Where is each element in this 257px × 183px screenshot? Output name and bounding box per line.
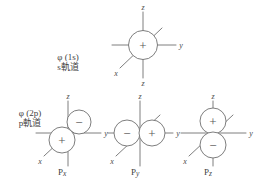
p-orbital-row-label: φ (2p) p軌道 — [2, 108, 58, 129]
s-orbital-group: + z y x z — [112, 3, 183, 88]
px-orbital-plus-sign: + — [58, 133, 65, 148]
py-orbital-plus-sign: + — [148, 126, 155, 141]
s-orbital-y-label: y — [178, 41, 183, 50]
s-orbital-z-label: z — [140, 3, 145, 12]
pz-orbital-x-label: x — [182, 157, 187, 166]
py-orbital-caption: Py — [131, 167, 140, 178]
px-orbital-x-label: x — [37, 157, 42, 166]
pz-orbital-z-label: z — [210, 92, 215, 101]
p-orbital-japanese-label: p軌道 — [2, 118, 58, 128]
py-orbital-x-label: x — [109, 157, 114, 166]
px-orbital-caption: Px — [58, 167, 67, 178]
pz-orbital-plus-sign: + — [209, 114, 216, 129]
py-orbital-group: − + z y x — [108, 92, 180, 167]
pz-orbital-caption: Pz — [204, 167, 212, 178]
py-caption-subscript: y — [136, 169, 139, 178]
py-orbital-y-label: y — [175, 129, 180, 138]
pz-orbital-y-label: y — [248, 129, 253, 138]
px-caption-subscript: x — [63, 169, 66, 178]
py-orbital-minus-sign: − — [123, 126, 130, 141]
pz-caption-subscript: z — [209, 169, 212, 178]
orbital-diagram-figure: φ (1s) s軌道 + z y x z − + — [0, 0, 257, 183]
py-orbital-z-label: z — [137, 92, 142, 101]
pz-orbital-minus-sign: − — [209, 138, 216, 153]
px-orbital-minus-sign: − — [75, 115, 82, 130]
s-orbital-plus-sign: + — [139, 38, 146, 53]
px-orbital-y-label: y — [103, 129, 108, 138]
px-orbital-z-label: z — [65, 92, 70, 101]
s-orbital-x-label: x — [113, 69, 118, 78]
s-orbital-z-bottom-label: z — [140, 79, 145, 88]
px-orbital-group: − + z y x — [36, 92, 108, 167]
diagram-canvas: + z y x z − + z y x − + — [0, 0, 257, 183]
pz-orbital-group: + − z y x — [181, 92, 253, 167]
p-orbital-phi-label: φ (2p) — [2, 108, 58, 118]
